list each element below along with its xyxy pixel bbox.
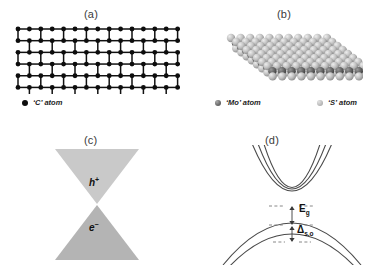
band-structure-diagram: Eg Δs.o: [217, 145, 367, 265]
band-structure-svg: [217, 145, 367, 265]
panel-c-dirac-cone: (c) h+ e−: [0, 135, 193, 271]
panel-c-label: (c): [84, 134, 97, 146]
electron-charge: −: [95, 221, 99, 228]
panel-d-band-structure: (d): [193, 135, 386, 271]
band-gap-subscript: g: [306, 209, 310, 216]
panel-b-label: (b): [277, 8, 291, 20]
panel-a-graphene: (a) ‘C’ atom: [0, 0, 193, 135]
legend-molybdenum: ‘Mo’ atom: [215, 98, 261, 107]
hole-carrier-label: h+: [89, 176, 99, 188]
legend-sulfur: ‘S’ atom: [317, 98, 357, 107]
atom-sphere-icon: [317, 100, 323, 106]
legend-carbon-label: ‘C’ atom: [33, 98, 62, 107]
graphene-lattice-diagram: [14, 26, 180, 94]
spin-orbit-subscript: s.o: [304, 230, 313, 237]
band-gap-label: Eg: [299, 203, 310, 216]
atom-sphere-icon: [215, 100, 221, 106]
legend-molybdenum-label: ‘Mo’ atom: [226, 98, 261, 107]
panel-a-label: (a): [84, 8, 98, 20]
legend-carbon: ‘C’ atom: [22, 98, 62, 107]
band-gap-arrow: [289, 206, 294, 225]
hole-charge: +: [95, 176, 99, 183]
dirac-cone-diagram: h+ e−: [55, 149, 139, 261]
conduction-bands: [251, 145, 333, 191]
spin-orbit-label: Δs.o: [297, 224, 314, 237]
band-gap-symbol: E: [299, 203, 306, 214]
electron-carrier-label: e−: [89, 221, 99, 233]
atom-dot-icon: [22, 100, 28, 106]
panel-b-mos2: (b) ‘Mo: [193, 0, 386, 135]
legend-sulfur-label: ‘S’ atom: [328, 98, 357, 107]
mos2-svg: [223, 30, 363, 96]
graphene-svg: [14, 26, 180, 94]
figure-panels: (a) ‘C’ atom (b): [0, 0, 386, 271]
mos2-lattice-diagram: [223, 30, 363, 96]
